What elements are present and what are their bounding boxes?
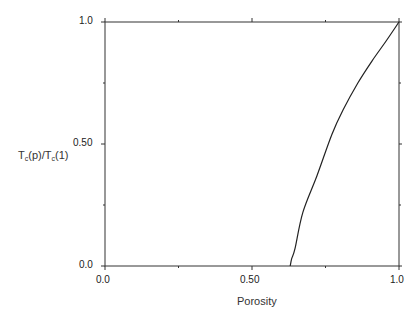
x-tick-label: 1.0 [390,274,404,285]
y-axis-label: Tc(p)/Tc(1) [18,149,68,162]
axis-ticks [101,18,402,270]
x-tick-label: 0.0 [96,274,110,285]
data-curve [290,22,399,266]
x-axis-label: Porosity [237,295,277,307]
y-tick-label: 0.0 [79,259,93,270]
y-tick-label: 0.50 [73,137,92,148]
x-tick-label: 0.50 [240,274,259,285]
y-tick-label: 1.0 [79,15,93,26]
axes-frame [105,22,399,266]
